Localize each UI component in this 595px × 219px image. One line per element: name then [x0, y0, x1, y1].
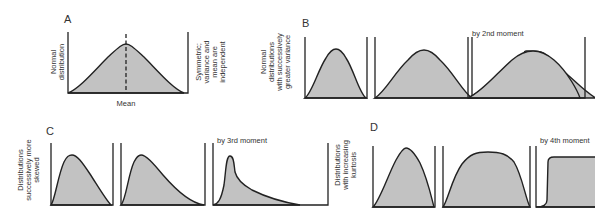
svg-text:independent: independent: [218, 40, 227, 82]
panel-c-ylabel: Distributions successively more skewed: [16, 139, 41, 200]
svg-text:kurtosis: kurtosis: [349, 152, 358, 178]
skew-curve-2: [121, 155, 204, 205]
kurtosis-curve-1: [373, 148, 434, 207]
panel-b: B Normal distributions with successively…: [259, 17, 595, 98]
panel-a-ylabel: Normal distribution: [49, 44, 66, 80]
panel-a-side-note: Symmetric; variance and mean are indepen…: [194, 40, 227, 83]
panel-c-letter: C: [46, 125, 54, 137]
panel-c-caption: by 3rd moment: [217, 136, 268, 145]
svg-text:greater variance: greater variance: [283, 35, 292, 89]
skew-curve-3: [213, 156, 300, 205]
skew-curve-1: [51, 155, 111, 205]
panel-b-caption: by 2nd moment: [472, 29, 525, 38]
svg-text:skewed: skewed: [32, 157, 41, 182]
distribution-diagram: A Normal distribution Mean Symmetric; va…: [0, 0, 595, 219]
panel-a: A Normal distribution Mean Symmetric; va…: [49, 13, 227, 108]
panel-d-caption: by 4th moment: [540, 136, 591, 145]
variance-curve-3-main: [468, 51, 580, 98]
svg-text:distribution: distribution: [57, 44, 66, 80]
panel-a-letter: A: [64, 13, 72, 25]
kurtosis-curve-3: [536, 157, 595, 207]
panel-b-ylabel: Normal distributions with successively g…: [259, 33, 292, 92]
panel-c: C Distributions successively more skewed…: [16, 125, 328, 205]
panel-c3-axes-right: [300, 143, 328, 205]
panel-b-letter: B: [302, 17, 309, 29]
variance-curve-2: [375, 50, 472, 98]
panel-d-letter: D: [370, 121, 378, 133]
mean-label: Mean: [117, 99, 136, 108]
panel-d-ylabel: Distributions with increasing kurtosis: [333, 140, 358, 191]
kurtosis-curve-2: [443, 152, 530, 207]
panel-d: D Distributions with increasing kurtosis…: [333, 121, 595, 207]
variance-curve-1: [305, 49, 366, 98]
